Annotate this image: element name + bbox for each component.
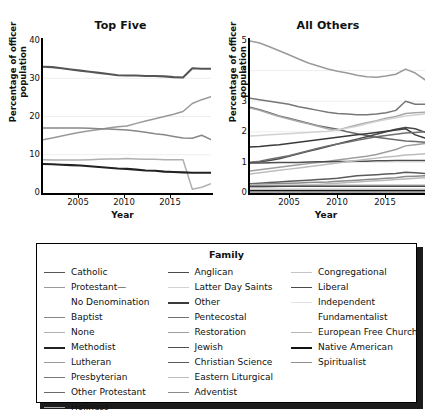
plot-area-all-others (250, 40, 425, 193)
legend-item[interactable]: Presbyterian (44, 370, 168, 385)
legend-swatch-line (44, 362, 65, 363)
x-axis-label-right: Year (213, 210, 427, 220)
legend-item-label: Liberal (318, 280, 348, 295)
legend-item-label: Eastern Liturgical (195, 370, 274, 385)
legend-item[interactable]: Lutheran (44, 355, 168, 370)
gridlines-left (43, 78, 211, 155)
y-tick-right-2: 2 (221, 126, 247, 136)
legend-item[interactable]: Christian Science (168, 355, 292, 370)
y-tick-left-30: 30 (14, 73, 40, 83)
legend-item-label: Holiness (71, 400, 109, 412)
legend-item[interactable]: Liberal (291, 280, 411, 295)
legend-item-label: Protestant— (71, 280, 126, 295)
data-lines-top-five (43, 67, 211, 189)
legend-swatch-line (44, 287, 65, 288)
legend-item[interactable]: European Free Church (291, 325, 411, 340)
legend-item-label: Baptist (71, 310, 103, 325)
legend-item-label: Adventist (195, 385, 238, 400)
legend-column-3: CongregationalLiberalIndependentFundamen… (291, 265, 411, 412)
legend-item-label-continued: Fundamentalist (318, 310, 388, 325)
series-line (250, 154, 425, 174)
y-tick-right-5: 5 (221, 35, 247, 45)
legend-swatch-line (168, 347, 189, 348)
legend-item[interactable]: Protestant— (44, 280, 168, 295)
x-tick-right-2015: 2015 (367, 197, 403, 207)
series-line (250, 98, 425, 115)
legend-item-label: Spiritualist (318, 355, 366, 370)
legend-item[interactable]: Jewish (168, 340, 292, 355)
series-line (43, 67, 211, 78)
y-tick-left-0: 0 (14, 187, 40, 197)
plot-svg-all-others (250, 40, 425, 193)
legend-swatch-line (44, 317, 65, 318)
legend-item[interactable]: Native American (291, 340, 411, 355)
legend-item-label: Methodist (71, 340, 115, 355)
legend-swatch-line (168, 362, 189, 363)
legend-item-label: Independent (318, 295, 375, 310)
legend-item-label: Pentecostal (195, 310, 247, 325)
legend-item[interactable]: Adventist (168, 385, 292, 400)
legend-swatch-line (44, 332, 65, 333)
series-line (43, 159, 211, 190)
legend-column-1: CatholicProtestant—No DenominationBaptis… (44, 265, 168, 412)
legend-item[interactable]: Other (168, 295, 292, 310)
legend-item[interactable]: Congregational (291, 265, 411, 280)
legend-item[interactable]: None (44, 325, 168, 340)
legend-swatch-line (168, 332, 189, 333)
legend-item-label: European Free Church (318, 325, 418, 340)
legend-item-label: Other (195, 295, 221, 310)
legend-swatch-line (291, 332, 312, 333)
legend-title: Family (37, 249, 416, 260)
legend-swatch-line (291, 347, 312, 349)
legend-item[interactable]: Holiness (44, 400, 168, 412)
legend-item-label: Other Protestant (71, 385, 146, 400)
legend-item-label: Native American (318, 340, 393, 355)
series-line (43, 97, 211, 140)
plot-area-top-five (43, 40, 211, 193)
y-tick-left-20: 20 (14, 111, 40, 121)
panel-top-five: Top Five Percentage of officer populatio… (0, 0, 213, 232)
x-tick-left-2015: 2015 (152, 197, 188, 207)
legend-item-label: Catholic (71, 265, 108, 280)
legend-item[interactable]: Baptist (44, 310, 168, 325)
legend-item[interactable]: Pentecostal (168, 310, 292, 325)
x-axis-label-left: Year (0, 210, 229, 220)
legend-item-label: Restoration (195, 325, 247, 340)
legend-item[interactable]: Independent (291, 295, 411, 310)
legend-swatch-line (44, 272, 65, 273)
y-tick-left-40: 40 (14, 35, 40, 45)
legend-item-continuation: No Denomination (44, 295, 168, 310)
legend-item-label: Presbyterian (71, 370, 128, 385)
legend-swatch-line (168, 302, 189, 304)
legend-item[interactable]: Restoration (168, 325, 292, 340)
legend-item[interactable]: Latter Day Saints (168, 280, 292, 295)
legend-item[interactable]: Anglican (168, 265, 292, 280)
figure: Top Five Percentage of officer populatio… (0, 0, 427, 412)
legend-swatch-line (168, 377, 189, 378)
y-tick-right-3: 3 (221, 96, 247, 106)
y-tick-left-10: 10 (14, 149, 40, 159)
series-line (250, 132, 425, 163)
series-line (250, 108, 425, 130)
series-line (250, 114, 425, 136)
x-tick-left-2010: 2010 (106, 197, 142, 207)
legend-item[interactable]: Spiritualist (291, 355, 411, 370)
legend-item[interactable]: Other Protestant (44, 385, 168, 400)
y-tick-right-4: 4 (221, 65, 247, 75)
legend-item[interactable]: Methodist (44, 340, 168, 355)
legend-swatch-line (291, 287, 312, 288)
legend-item-label: None (71, 325, 94, 340)
legend-item[interactable]: Catholic (44, 265, 168, 280)
series-line (250, 143, 425, 171)
legend-item-label: Christian Science (195, 355, 273, 370)
legend-swatch-line (44, 407, 65, 408)
legend-item-label: Lutheran (71, 355, 111, 370)
legend-item-continuation: Fundamentalist (291, 310, 411, 325)
legend-swatch-line (44, 377, 65, 378)
legend-item-label: Latter Day Saints (195, 280, 273, 295)
legend-item[interactable]: Eastern Liturgical (168, 370, 292, 385)
panel-title-top-five: Top Five (0, 19, 227, 32)
legend-swatch-line (168, 392, 189, 393)
x-axis-line-left (41, 193, 213, 195)
series-line (250, 41, 425, 80)
